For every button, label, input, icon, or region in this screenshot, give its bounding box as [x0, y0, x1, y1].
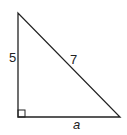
horizontal-leg-label: a [73, 117, 80, 132]
hypotenuse-label: 7 [70, 52, 77, 67]
triangle-diagram: 5 7 a [0, 0, 127, 135]
right-angle-marker [18, 110, 25, 117]
triangle [18, 13, 120, 117]
vertical-leg-label: 5 [9, 50, 16, 65]
